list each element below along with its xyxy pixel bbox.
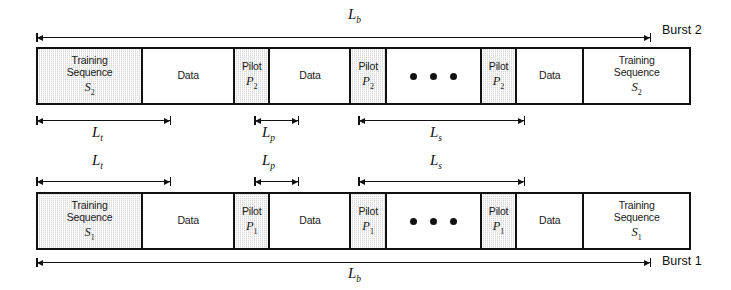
- block-line1: Data: [299, 70, 320, 82]
- block-line1: Training: [619, 200, 655, 212]
- dimension-arrow-Lb-bottom: [36, 258, 651, 267]
- block-data-1-burst1: Data: [143, 194, 235, 248]
- ellipsis-dot: [450, 218, 457, 225]
- ellipsis-dot: [430, 73, 437, 80]
- dimension-label-Ls-top: Ls: [430, 124, 442, 143]
- burst-1-frame: Training Sequence S1 Data Pilot P1 Data …: [36, 192, 691, 250]
- block-line2: Sequence: [614, 212, 660, 224]
- block-training-sequence-right-burst1: Training Sequence S1: [584, 194, 689, 248]
- block-ellipsis-burst2: [387, 49, 482, 103]
- block-data-3-burst1: Data: [517, 194, 584, 248]
- block-line1: Data: [177, 70, 198, 82]
- dimension-label-Lt-top: Lt: [92, 124, 103, 143]
- block-line2: Sequence: [67, 212, 113, 224]
- block-pilot-2-burst2: Pilot P2: [351, 49, 386, 103]
- dimension-label-Lb-bottom: Lb: [348, 265, 361, 284]
- block-pilot-3-burst1: Pilot P1: [482, 194, 517, 248]
- block-line1: Pilot: [242, 61, 261, 73]
- dimension-label-Lt-bottom: Lt: [92, 152, 103, 171]
- ellipsis-dot: [410, 73, 417, 80]
- block-line1: Data: [299, 215, 320, 227]
- block-pilot-1-burst2: Pilot P2: [235, 49, 270, 103]
- block-line1: Pilot: [489, 61, 508, 73]
- block-symbol: S1: [632, 225, 642, 242]
- burst-label-1: Burst 1: [662, 254, 702, 268]
- block-line1: Training: [72, 200, 108, 212]
- block-training-sequence-left-burst2: Training Sequence S2: [38, 49, 143, 103]
- burst-2-frame: Training Sequence S2 Data Pilot P2 Data …: [36, 47, 691, 105]
- ellipsis-dot: [450, 73, 457, 80]
- dimension-arrow-Lp-top: [254, 116, 299, 125]
- ellipsis-dot: [410, 218, 417, 225]
- block-data-2-burst1: Data: [270, 194, 351, 248]
- block-data-1-burst2: Data: [143, 49, 235, 103]
- ellipsis-dots: [387, 218, 480, 225]
- dimension-label-Lp-bottom: Lp: [262, 152, 275, 171]
- block-line1: Training: [72, 55, 108, 67]
- block-symbol: P2: [362, 74, 374, 91]
- block-symbol: P1: [362, 219, 374, 236]
- block-data-3-burst2: Data: [517, 49, 584, 103]
- block-symbol: S2: [632, 80, 642, 97]
- ellipsis-dots: [387, 73, 480, 80]
- block-line1: Pilot: [358, 206, 377, 218]
- block-line1: Data: [539, 215, 560, 227]
- block-ellipsis-burst1: [387, 194, 482, 248]
- block-symbol: P1: [246, 219, 258, 236]
- block-symbol: S2: [84, 80, 94, 97]
- dimension-arrow-Ls-bottom: [358, 177, 525, 186]
- block-line2: Sequence: [614, 67, 660, 79]
- frame-structure-diagram: Lb Burst 2 Training Sequence S2 Data Pil…: [0, 0, 731, 290]
- dimension-label-Lp-top: Lp: [262, 124, 275, 143]
- dimension-label-Ls-bottom: Ls: [430, 152, 442, 171]
- block-line1: Data: [177, 215, 198, 227]
- block-pilot-3-burst2: Pilot P2: [482, 49, 517, 103]
- block-training-sequence-right-burst2: Training Sequence S2: [584, 49, 689, 103]
- block-symbol: P1: [493, 219, 505, 236]
- block-line1: Pilot: [489, 206, 508, 218]
- dimension-arrow-Lt-top: [36, 116, 171, 125]
- ellipsis-dot: [430, 218, 437, 225]
- dimension-arrow-Lt-bottom: [36, 177, 171, 186]
- burst-label-2: Burst 2: [662, 23, 702, 37]
- block-data-2-burst2: Data: [270, 49, 351, 103]
- block-line1: Training: [619, 55, 655, 67]
- dimension-arrow-Lp-bottom: [254, 177, 299, 186]
- block-line1: Data: [539, 70, 560, 82]
- block-pilot-2-burst1: Pilot P1: [351, 194, 386, 248]
- dimension-label-Lb-top: Lb: [348, 6, 361, 25]
- block-line2: Sequence: [67, 67, 113, 79]
- block-symbol: P2: [493, 74, 505, 91]
- dimension-arrow-Lb-top: [36, 33, 651, 42]
- block-symbol: P2: [246, 74, 258, 91]
- block-pilot-1-burst1: Pilot P1: [235, 194, 270, 248]
- block-training-sequence-left-burst1: Training Sequence S1: [38, 194, 143, 248]
- block-symbol: S1: [84, 225, 94, 242]
- block-line1: Pilot: [242, 206, 261, 218]
- block-line1: Pilot: [358, 61, 377, 73]
